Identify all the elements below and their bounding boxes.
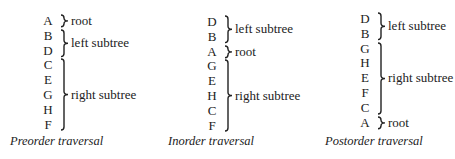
postorder-caption: Postorder traversal (325, 134, 423, 149)
subtree-label: left subtree (71, 35, 129, 50)
node-letter: G (358, 41, 372, 56)
subtree-label: right subtree (235, 88, 300, 103)
node-letter: B (358, 26, 372, 41)
node-letter: C (41, 57, 55, 72)
right-brace-icon (60, 59, 70, 130)
node-letter: H (205, 88, 219, 103)
node-letter: B (205, 29, 219, 44)
right-brace-icon (224, 46, 234, 58)
right-brace-icon (377, 117, 387, 129)
node-letter: C (205, 103, 219, 118)
preorder-caption: Preorder traversal (10, 134, 103, 149)
inorder-caption: Inorder traversal (168, 134, 254, 149)
node-letter: H (358, 55, 372, 70)
right-brace-icon (377, 13, 387, 40)
node-letter: H (41, 102, 55, 117)
node-letter: B (41, 28, 55, 43)
node-letter: G (205, 58, 219, 73)
subtree-label: left subtree (388, 18, 446, 33)
right-brace-icon (224, 16, 234, 43)
subtree-label: root (235, 44, 256, 59)
node-letter: E (41, 72, 55, 87)
right-brace-icon (224, 60, 234, 131)
subtree-label: root (71, 13, 92, 28)
node-letter: A (205, 44, 219, 59)
right-brace-icon (377, 43, 387, 114)
subtree-label: right subtree (71, 87, 136, 102)
node-letter: D (41, 43, 55, 58)
node-letter: C (358, 100, 372, 115)
right-brace-icon (60, 30, 70, 57)
subtree-label: right subtree (388, 70, 453, 85)
node-letter: E (358, 70, 372, 85)
node-letter: F (41, 117, 55, 132)
node-letter: F (205, 118, 219, 133)
node-letter: D (205, 14, 219, 29)
node-letter: F (358, 85, 372, 100)
node-letter: A (358, 115, 372, 130)
node-letter: A (41, 13, 55, 28)
subtree-label: left subtree (235, 21, 293, 36)
right-brace-icon (60, 15, 70, 27)
node-letter: D (358, 11, 372, 26)
node-letter: G (41, 87, 55, 102)
node-letter: E (205, 73, 219, 88)
subtree-label: root (388, 115, 409, 130)
